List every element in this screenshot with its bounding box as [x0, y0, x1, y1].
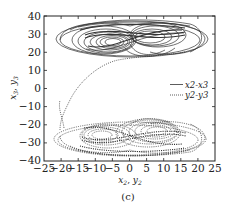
y-tick-label: 0: [34, 82, 41, 94]
x-tick-label: 10: [157, 162, 170, 174]
y-tick-label: −20: [19, 118, 41, 130]
x-tick-labels: −25 −20 −15 −10 −5 0 5 10 15 20 25: [33, 162, 222, 174]
x-tick-label: −5: [105, 162, 120, 174]
y-tick-label: −30: [19, 136, 41, 148]
x-tick-label: −10: [84, 162, 106, 174]
series-x2-x3: [56, 20, 208, 57]
y-tick-label: −10: [19, 100, 41, 112]
chart-figure: 40 30 20 10 0 −10 −20 −30 −40 −25 −20 −1…: [0, 0, 232, 210]
figure-caption: (c): [121, 191, 135, 202]
y-tick-label: 20: [28, 46, 41, 58]
legend: x2-x3 y2-y3: [170, 80, 208, 101]
y-tick-label: 40: [28, 10, 41, 22]
legend-label-y2-y3: y2-y3: [184, 90, 208, 100]
x-tick-label: 25: [208, 162, 221, 174]
x-tick-label: 15: [174, 162, 187, 174]
x-tick-label: 5: [143, 162, 150, 174]
y-tick-label: 10: [28, 64, 41, 76]
x-axis-label: x2, y2: [118, 175, 142, 186]
x-tick-label: 0: [126, 162, 133, 174]
y-tick-labels: 40 30 20 10 0 −10 −20 −30 −40: [19, 10, 41, 166]
series-y2-y3: [54, 52, 206, 156]
x-tick-label: 20: [191, 162, 204, 174]
y-tick-label: 30: [28, 28, 41, 40]
legend-label-x2-x3: x2-x3: [185, 80, 208, 90]
y-axis-label: x3, y3: [8, 76, 19, 100]
